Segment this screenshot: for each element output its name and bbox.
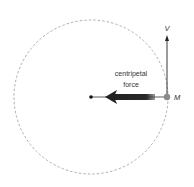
- force-label-line1: centripetal: [115, 70, 148, 78]
- center-point: [89, 95, 93, 99]
- mass-dot: [164, 94, 170, 100]
- centripetal-force-arrow: [105, 90, 155, 104]
- velocity-label: V: [164, 24, 170, 33]
- force-label-line2: force: [123, 81, 139, 88]
- circular-motion-diagram: centripetal force V M: [0, 0, 194, 187]
- velocity-arrow: [165, 35, 169, 97]
- mass-label: M: [174, 93, 181, 102]
